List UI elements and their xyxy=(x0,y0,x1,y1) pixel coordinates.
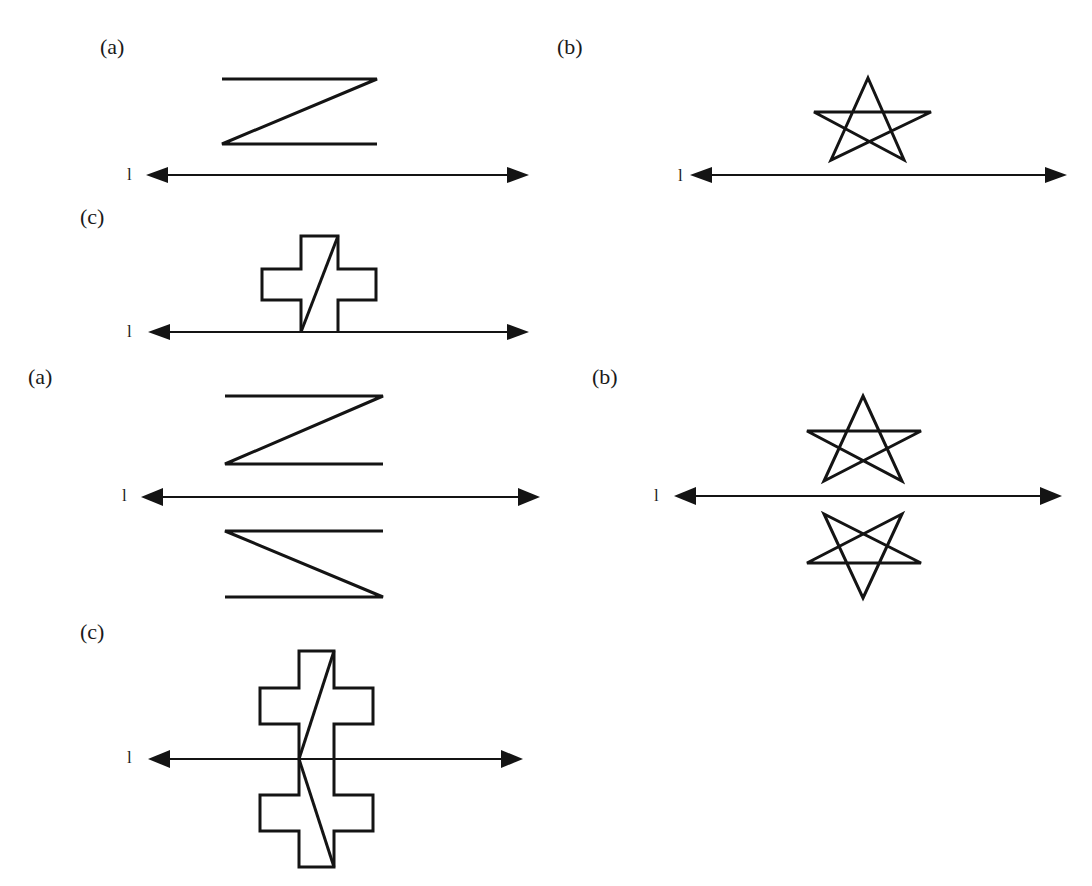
figure-drawing xyxy=(0,0,1092,886)
bottom-b-axis-line xyxy=(674,487,1062,505)
bottom-a-axis-line xyxy=(141,488,540,506)
top-b-axis-line xyxy=(690,167,1067,183)
arrow-right-icon xyxy=(518,488,540,506)
bottom-c-cross-mirror xyxy=(260,759,373,867)
arrow-left-icon xyxy=(141,488,163,506)
arrow-right-icon xyxy=(507,167,529,183)
arrow-right-icon xyxy=(1045,167,1067,183)
arrow-right-icon xyxy=(1040,487,1062,505)
bottom-a-z-shape xyxy=(225,396,383,464)
arrow-left-icon xyxy=(146,167,168,183)
bottom-b-star xyxy=(807,396,921,481)
top-b-star xyxy=(814,78,931,160)
bottom-a-z-mirror xyxy=(225,531,383,597)
arrow-right-icon xyxy=(501,750,523,768)
arrow-left-icon xyxy=(690,167,712,183)
reflection-figure: (a) (b) (c) (a) (b) (c) l l l l l l xyxy=(0,0,1092,886)
arrow-left-icon xyxy=(148,750,170,768)
top-a-z-shape xyxy=(222,79,377,144)
bottom-b-star-mirror xyxy=(807,514,921,598)
top-a-axis-line xyxy=(146,167,529,183)
bottom-c-cross xyxy=(260,651,373,759)
top-c-cross xyxy=(262,236,376,332)
arrow-right-icon xyxy=(507,324,529,340)
arrow-left-icon xyxy=(674,487,696,505)
arrow-left-icon xyxy=(148,324,170,340)
